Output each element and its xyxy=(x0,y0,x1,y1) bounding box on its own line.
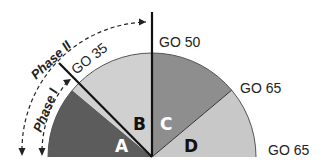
sector-c-label: C xyxy=(160,114,172,134)
go-65-lower-label: GO 65 xyxy=(268,142,309,158)
sector-a-label: A xyxy=(115,136,129,156)
phase-2-label: Phase II xyxy=(28,37,74,82)
phase-2-arrowhead-bottom xyxy=(19,148,26,156)
phase-1-arrowhead-top xyxy=(63,79,71,86)
phase-diagram: Phase I Phase II GO 35 GO 50 GO 65 GO 65… xyxy=(0,0,323,166)
phase-1-arrowhead-bottom xyxy=(39,148,46,156)
go-65-upper-label: GO 65 xyxy=(240,80,281,96)
sector-b-label: B xyxy=(133,114,146,134)
sector-d-label: D xyxy=(184,136,198,156)
go-50-label: GO 50 xyxy=(159,34,200,50)
phase-2-arrowhead-top xyxy=(139,19,146,26)
